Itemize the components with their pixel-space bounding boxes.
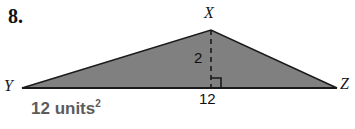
worksheet-problem-figure: 8. X Y Z 2 12 12 units2 bbox=[0, 0, 355, 129]
area-answer-value: 12 units bbox=[31, 99, 95, 118]
base-measurement-label: 12 bbox=[199, 91, 216, 106]
vertex-label-z: Z bbox=[340, 76, 349, 92]
height-measurement-label: 2 bbox=[194, 50, 202, 65]
area-answer-exponent: 2 bbox=[95, 98, 101, 109]
vertex-label-x: X bbox=[204, 5, 214, 21]
area-answer: 12 units2 bbox=[31, 100, 101, 117]
vertex-label-y: Y bbox=[4, 78, 13, 94]
triangle-shape bbox=[22, 30, 337, 88]
